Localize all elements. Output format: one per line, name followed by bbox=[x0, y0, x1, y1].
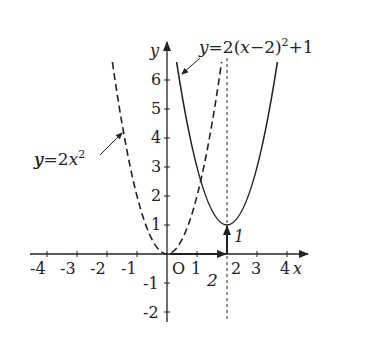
x-tick-label: -2 bbox=[90, 259, 106, 278]
y-tick-label: 3 bbox=[151, 157, 161, 176]
x-tick-label: -3 bbox=[60, 259, 76, 278]
base-parabola-leader bbox=[100, 133, 122, 155]
x-tick-label: 1 bbox=[191, 259, 201, 278]
origin-label: O bbox=[172, 259, 185, 278]
y-tick-label: -1 bbox=[143, 274, 159, 293]
vertical-shift-label: 1 bbox=[234, 227, 244, 246]
x-tick-label: -4 bbox=[30, 259, 46, 278]
graph-canvas: -4 -3 -2 -1 O 1 2 3 4 x 6 5 4 3 2 1 -1 -… bbox=[0, 0, 370, 347]
y-tick-label: 2 bbox=[151, 186, 161, 205]
axes: -4 -3 -2 -1 O 1 2 3 4 x 6 5 4 3 2 1 -1 -… bbox=[30, 41, 308, 322]
y-tick-label: -2 bbox=[143, 303, 159, 322]
y-tick-label: 4 bbox=[151, 128, 161, 147]
x-tick-label: 3 bbox=[251, 259, 261, 278]
base-parabola-label-text: y=2x2 bbox=[33, 148, 85, 169]
translated-parabola-leader bbox=[182, 58, 200, 74]
y-tick-label: 5 bbox=[151, 99, 161, 118]
y-axis-label: y bbox=[149, 41, 160, 60]
x-tick-label: 2 bbox=[231, 259, 241, 278]
x-axis-label: x bbox=[293, 259, 302, 278]
horizontal-shift-label: 2 bbox=[206, 270, 218, 290]
x-tick-label: 4 bbox=[280, 259, 290, 278]
translated-parabola-label-text: y=2(x−2)2+1 bbox=[198, 36, 314, 57]
y-tick-label: 6 bbox=[151, 70, 161, 89]
x-tick-label: -1 bbox=[121, 259, 137, 278]
y-tick-label: 1 bbox=[151, 215, 161, 234]
